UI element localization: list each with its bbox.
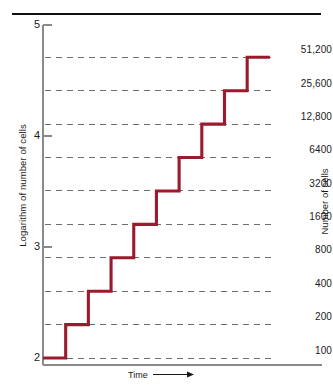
figure-container: 5 4 3 2 51,200 25,600 12,800 6400 3200 1… [0,0,333,391]
right-label-12800: 12,800 [278,111,332,122]
chart-plot-area [0,0,333,391]
right-label-200: 200 [278,311,332,322]
y-axis-title-right: Number of cells [319,122,330,282]
right-label-100: 100 [278,345,332,356]
x-axis-title-text: Time [128,370,148,380]
growth-step-curve [43,57,270,358]
grid-lines-group [45,57,273,358]
right-label-25600: 25,600 [278,78,332,89]
right-label-51200: 51,200 [278,44,332,55]
y-tick-label-5: 5 [22,18,40,30]
y-tick-label-2: 2 [22,351,40,363]
y-axis-title-left: Logarithm of number of cells [17,76,28,296]
arrow-right-icon [153,370,195,381]
x-axis-title: Time [128,370,195,381]
axis-ticks-group [43,25,52,358]
